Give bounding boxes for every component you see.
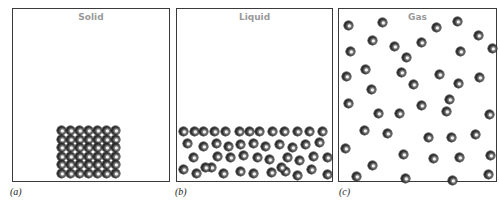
molecule-icon [93, 143, 102, 152]
molecule-icon [66, 143, 75, 152]
molecule-icon [283, 153, 292, 162]
molecule-icon [484, 170, 493, 179]
molecule-icon [374, 109, 383, 118]
molecule-icon [301, 140, 310, 149]
molecule-icon [395, 109, 404, 118]
molecule-icon [323, 170, 332, 179]
molecule-icon [236, 140, 245, 149]
molecule-icon [397, 68, 406, 77]
molecule-icon [111, 126, 120, 135]
molecule-icon [486, 151, 495, 160]
molecule-icon [199, 142, 208, 151]
molecule-icon [212, 139, 221, 148]
molecule-icon [219, 169, 228, 178]
caption-b: (b) [175, 186, 187, 197]
caption-c: (c) [339, 186, 350, 197]
molecule-icon [368, 161, 377, 170]
molecule-icon [75, 143, 84, 152]
molecule-icon [360, 126, 369, 135]
molecule-icon [475, 73, 484, 82]
molecule-icon [454, 79, 463, 88]
molecule-icon [344, 21, 353, 30]
molecule-icon [236, 167, 245, 176]
molecule-icon [221, 127, 230, 136]
molecule-icon [288, 143, 297, 152]
molecule-icon [280, 127, 289, 136]
molecule-icon [402, 53, 411, 62]
molecule-icon [293, 171, 302, 180]
molecule-icon [305, 127, 314, 136]
molecule-icon [417, 38, 426, 47]
molecule-icon [249, 139, 258, 148]
molecule-icon [210, 127, 219, 136]
molecule-icon [367, 85, 376, 94]
molecule-icon [84, 143, 93, 152]
molecule-icon [179, 127, 188, 136]
molecule-icon [361, 65, 370, 74]
molecule-icon [239, 151, 248, 160]
molecule-icon [318, 127, 327, 136]
molecule-icon [190, 127, 199, 136]
molecule-icon [57, 126, 66, 135]
molecule-icon [488, 44, 497, 53]
molecule-icon [102, 143, 111, 152]
molecule-icon [277, 163, 286, 172]
molecule-icon [265, 155, 274, 164]
molecule-icon [368, 36, 377, 45]
molecule-icon [268, 127, 277, 136]
molecule-icon [474, 31, 483, 40]
molecule-icon [447, 133, 456, 142]
molecule-icon [442, 107, 451, 116]
molecule-icon [344, 99, 353, 108]
molecule-icon [323, 153, 332, 162]
molecule-icon [102, 126, 111, 135]
molecule-icon [66, 169, 75, 178]
molecule-icon [445, 95, 454, 104]
molecule-icon [75, 169, 84, 178]
molecule-icon [255, 127, 264, 136]
molecule-icon [93, 169, 102, 178]
molecule-icon [111, 143, 120, 152]
molecule-icon [183, 139, 192, 148]
molecule-icon [309, 152, 318, 161]
molecule-icon [456, 47, 465, 56]
solid-title: Solid [13, 12, 169, 22]
molecule-icon [201, 163, 210, 172]
molecule-icon [352, 172, 361, 181]
molecule-icon [84, 169, 93, 178]
molecule-icon [315, 138, 324, 147]
molecule-icon [435, 70, 444, 79]
molecule-icon [401, 174, 410, 183]
molecule-icon [249, 169, 258, 178]
molecule-icon [346, 47, 355, 56]
molecule-icon [179, 165, 188, 174]
molecule-icon [224, 142, 233, 151]
molecule-icon [253, 153, 262, 162]
molecule-icon [111, 169, 120, 178]
molecule-icon [471, 130, 480, 139]
molecule-icon [448, 176, 457, 185]
gas-panel: Gas [338, 8, 497, 182]
molecule-icon [93, 126, 102, 135]
molecule-icon [432, 23, 441, 32]
molecule-icon [378, 18, 387, 27]
solid-panel: Solid [12, 8, 170, 182]
molecule-icon [57, 169, 66, 178]
molecule-icon [485, 110, 494, 119]
molecule-icon [342, 72, 351, 81]
molecule-icon [261, 142, 270, 151]
caption-a: (a) [10, 186, 22, 197]
molecule-icon [307, 165, 316, 174]
molecule-icon [455, 153, 464, 162]
molecule-icon [383, 129, 392, 138]
molecule-icon [267, 168, 276, 177]
molecule-icon [295, 156, 304, 165]
molecule-icon [417, 101, 426, 110]
molecule-icon [199, 127, 208, 136]
liquid-panel: Liquid [176, 8, 333, 182]
molecule-icon [275, 140, 284, 149]
molecule-icon [189, 153, 198, 162]
molecule-icon [399, 150, 408, 159]
gas-title: Gas [339, 12, 496, 22]
molecule-icon [429, 154, 438, 163]
